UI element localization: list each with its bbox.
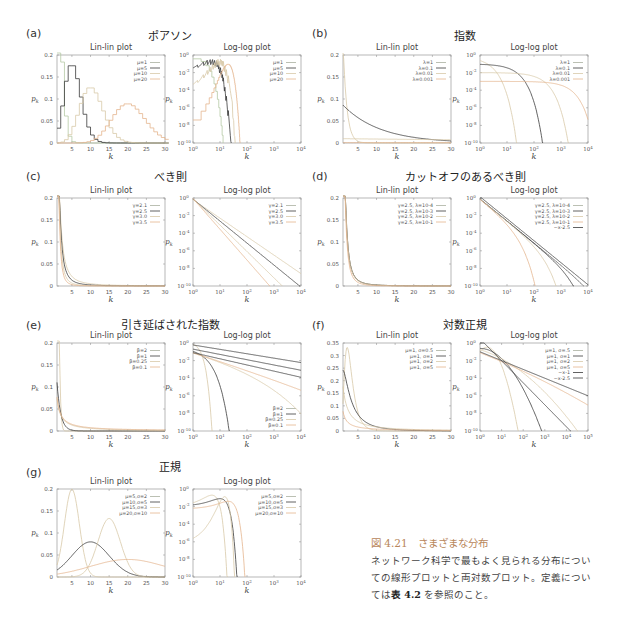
svg-text:100: 100 bbox=[475, 433, 485, 441]
svg-text:0.15: 0.15 bbox=[327, 217, 340, 223]
svg-text:0.05: 0.05 bbox=[41, 552, 54, 558]
svg-text:μ=20: μ=20 bbox=[270, 77, 283, 82]
panel-letter-e: (e) bbox=[26, 319, 41, 332]
svg-text:0.15: 0.15 bbox=[41, 362, 54, 368]
svg-text:25: 25 bbox=[143, 434, 150, 440]
plot-a-log: 10-1010-810-610-410-2100100101102103104k… bbox=[193, 55, 301, 143]
plot-title-b-log: Log-log plot bbox=[479, 43, 589, 52]
svg-text:100: 100 bbox=[179, 51, 189, 59]
svg-text:γ=2.5, λ=10-2: γ=2.5, λ=10-2 bbox=[398, 214, 433, 219]
svg-text:γ=2.5, λ=10-4: γ=2.5, λ=10-4 bbox=[398, 203, 433, 208]
svg-text:103: 103 bbox=[269, 433, 279, 441]
svg-text:104: 104 bbox=[562, 433, 572, 441]
svg-text:5: 5 bbox=[70, 434, 74, 440]
svg-text:10-8: 10-8 bbox=[466, 409, 477, 417]
panel-letter-d: (d) bbox=[312, 170, 328, 183]
svg-text:μ=5: μ=5 bbox=[273, 66, 283, 71]
svg-text:0.05: 0.05 bbox=[41, 261, 54, 267]
svg-text:λ=0.01: λ=0.01 bbox=[552, 71, 570, 76]
svg-text:103: 103 bbox=[556, 145, 566, 153]
plot-title-b-lin: Lin-lin plot bbox=[342, 43, 452, 52]
panel-title-f: 対数正規 bbox=[395, 316, 535, 332]
plot-g-log: 10-1010-810-610-410-2100100101102103104k… bbox=[193, 489, 301, 577]
svg-text:10: 10 bbox=[373, 289, 380, 295]
svg-text:β=0.25: β=0.25 bbox=[265, 417, 283, 422]
svg-text:β=2: β=2 bbox=[137, 348, 147, 353]
svg-text:μ=10: μ=10 bbox=[134, 71, 147, 76]
svg-text:γ=2.5, λ=10-3: γ=2.5, λ=10-3 bbox=[535, 209, 570, 214]
panel-title-b: 指数 bbox=[395, 27, 535, 43]
svg-text:101: 101 bbox=[215, 579, 225, 587]
svg-text:10-2: 10-2 bbox=[179, 356, 190, 364]
svg-text:λ=1: λ=1 bbox=[423, 60, 433, 65]
svg-text:25: 25 bbox=[429, 146, 436, 152]
svg-text:0: 0 bbox=[336, 283, 340, 289]
svg-text:0.2: 0.2 bbox=[44, 340, 53, 346]
svg-text:20: 20 bbox=[124, 289, 131, 295]
svg-text:μ=15,σ=3: μ=15,σ=3 bbox=[122, 505, 147, 510]
svg-text:102: 102 bbox=[529, 288, 539, 296]
svg-text:10-10: 10-10 bbox=[464, 139, 478, 147]
svg-text:pk: pk bbox=[165, 383, 173, 392]
svg-text:10-6: 10-6 bbox=[179, 391, 190, 399]
caption-text: ては bbox=[371, 589, 391, 600]
svg-text:10-2: 10-2 bbox=[179, 68, 190, 76]
panel-title-c: べき則 bbox=[100, 168, 240, 184]
panel-letter-b: (b) bbox=[312, 27, 328, 40]
svg-text:μ=1, σ=5: μ=1, σ=5 bbox=[547, 365, 570, 370]
svg-text:10-4: 10-4 bbox=[466, 229, 477, 237]
svg-text:25: 25 bbox=[429, 434, 436, 440]
svg-text:101: 101 bbox=[215, 145, 225, 153]
svg-text:10-4: 10-4 bbox=[179, 520, 190, 528]
svg-text:10-6: 10-6 bbox=[466, 246, 477, 254]
svg-text:γ=3.0: γ=3.0 bbox=[269, 214, 284, 219]
svg-text:10-10: 10-10 bbox=[464, 282, 478, 290]
svg-text:10-8: 10-8 bbox=[179, 121, 190, 128]
svg-text:pk: pk bbox=[31, 95, 39, 104]
svg-text:μ=10,σ=5: μ=10,σ=5 bbox=[122, 500, 147, 505]
svg-text:104: 104 bbox=[583, 145, 593, 153]
svg-text:10-4: 10-4 bbox=[466, 374, 477, 382]
panel-title-g: 正規 bbox=[100, 458, 240, 474]
svg-text:10-8: 10-8 bbox=[179, 555, 190, 563]
svg-text:0.15: 0.15 bbox=[41, 508, 54, 514]
svg-text:10-6: 10-6 bbox=[466, 103, 477, 111]
svg-text:0.35: 0.35 bbox=[327, 340, 340, 346]
svg-text:pk: pk bbox=[317, 238, 325, 247]
svg-text:103: 103 bbox=[269, 288, 279, 296]
svg-text:pk: pk bbox=[452, 95, 460, 104]
caption-line: ネットワーク科学で最もよく見られる分布につい bbox=[371, 552, 621, 569]
svg-text:pk: pk bbox=[317, 383, 325, 392]
panel-title-a: ポアソン bbox=[100, 27, 240, 43]
svg-text:k: k bbox=[245, 152, 250, 161]
svg-text:25: 25 bbox=[429, 289, 436, 295]
svg-text:0.1: 0.1 bbox=[44, 239, 53, 245]
svg-text:0.1: 0.1 bbox=[330, 96, 339, 102]
svg-text:μ=20,σ=10: μ=20,σ=10 bbox=[119, 511, 147, 516]
svg-text:100: 100 bbox=[188, 433, 198, 441]
svg-text:102: 102 bbox=[242, 145, 252, 153]
svg-text:20: 20 bbox=[410, 289, 417, 295]
svg-text:100: 100 bbox=[188, 579, 198, 587]
svg-text:μ=20,σ=10: μ=20,σ=10 bbox=[255, 511, 283, 516]
svg-text:5: 5 bbox=[356, 146, 360, 152]
svg-text:0.2: 0.2 bbox=[44, 195, 53, 201]
figure-caption-heading: 図 4.21 さまざまな分布 bbox=[371, 535, 488, 550]
plot-title-f-log: Log-log plot bbox=[479, 331, 589, 340]
svg-text:μ=1: μ=1 bbox=[137, 60, 147, 65]
plot-title-a-log: Log-log plot bbox=[192, 43, 302, 52]
svg-text:103: 103 bbox=[540, 433, 550, 441]
svg-text:β=1: β=1 bbox=[137, 354, 147, 359]
svg-text:105: 105 bbox=[583, 433, 593, 441]
plot-b-log: 10-1010-810-610-410-2100100101102103104k… bbox=[480, 55, 588, 143]
plot-e-lin: 00.050.10.150.251015202530kpkβ=2β=1β=0.2… bbox=[57, 343, 165, 431]
plot-title-c-log: Log-log plot bbox=[192, 186, 302, 195]
svg-text:γ=2.1: γ=2.1 bbox=[269, 203, 284, 208]
svg-text:103: 103 bbox=[269, 145, 279, 153]
svg-text:100: 100 bbox=[466, 51, 476, 59]
svg-text:μ=10: μ=10 bbox=[270, 71, 283, 76]
svg-text:20: 20 bbox=[124, 146, 131, 152]
svg-text:10-8: 10-8 bbox=[179, 264, 190, 272]
svg-text:μ=1, σ=2: μ=1, σ=2 bbox=[547, 359, 570, 364]
svg-text:β=1: β=1 bbox=[273, 412, 283, 417]
